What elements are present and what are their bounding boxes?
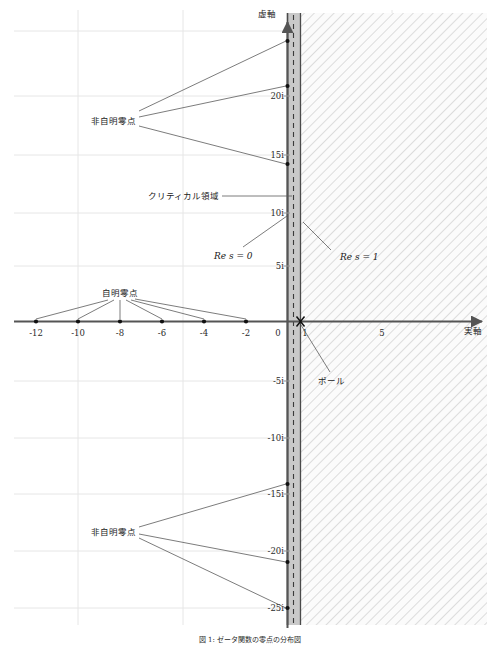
- nontrivial-zero-point: [285, 482, 289, 486]
- x-tick-label: -2: [242, 328, 250, 338]
- imaginary-axis-label: 虚軸: [258, 9, 276, 19]
- trivial-zero-point: [34, 319, 38, 323]
- y-tick-label: -5i: [273, 376, 284, 386]
- zeta-zeros-figure: -12 -10 -8 -6 -4 -2 0 1 5 5i 10i 15i 20i…: [0, 0, 500, 645]
- trivial-zero-point: [118, 319, 122, 323]
- y-tick-label: -10i: [268, 433, 285, 443]
- x-tick-label: -10: [71, 328, 85, 338]
- y-tick-label: -20i: [268, 546, 285, 556]
- x-tick-label: -6: [158, 328, 166, 338]
- x-tick-label: 1: [302, 328, 307, 338]
- real-axis-label: 実軸: [464, 326, 482, 336]
- trivial-zero-point: [160, 319, 164, 323]
- x-tick-label: -12: [29, 328, 43, 338]
- annotation-pole: ポール: [318, 376, 345, 386]
- y-tick-label: 5i: [276, 261, 284, 271]
- y-tick-label: -25i: [268, 603, 285, 613]
- region-re-s-greater-than-one: [300, 13, 487, 625]
- x-tick-label: -4: [200, 328, 208, 338]
- nontrivial-zero-point: [285, 560, 289, 564]
- trivial-zero-point: [76, 319, 80, 323]
- y-tick-label: 10i: [270, 208, 284, 218]
- trivial-zero-point: [202, 319, 206, 323]
- x-tick-label: -8: [116, 328, 124, 338]
- annotation-nontrivial-zeros-lower: 非自明零点: [91, 527, 136, 537]
- trivial-zero-point: [244, 319, 248, 323]
- label-re-s-equals-zero: Re s = 0: [213, 251, 253, 261]
- x-tick-label: 5: [379, 328, 384, 338]
- label-re-s-equals-one: Re s = 1: [339, 252, 379, 262]
- nontrivial-zero-point: [285, 84, 289, 88]
- y-tick-label: 20i: [270, 91, 284, 101]
- annotation-trivial-zeros: 自明零点: [102, 288, 138, 298]
- nontrivial-zero-point: [285, 39, 289, 43]
- y-tick-label: 15i: [270, 150, 284, 160]
- nontrivial-zero-point: [285, 162, 289, 166]
- annotation-nontrivial-zeros-upper: 非自明零点: [91, 116, 136, 126]
- annotation-critical-region: クリティカル領域: [148, 191, 219, 201]
- figure-caption: 図 1: ゼータ関数の零点の分布図: [199, 635, 301, 644]
- nontrivial-zero-point: [285, 606, 289, 610]
- x-tick-label: 0: [275, 328, 280, 338]
- y-tick-label: -15i: [268, 489, 285, 499]
